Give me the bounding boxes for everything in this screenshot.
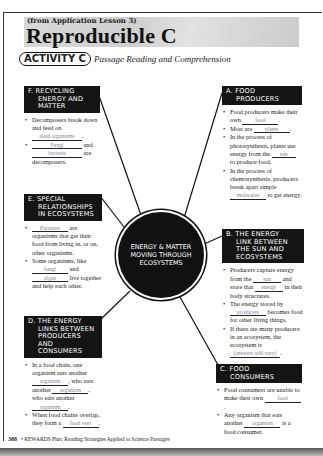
answer-blank[interactable]: organism [244,420,280,428]
bullet: In the process of photosynthesis, plants… [222,133,302,166]
bullet: Decomposers break down and feed on dead … [24,116,100,141]
panel-d-header: D. THE ENERGY LINKS BETWEEN PRODUCERS AN… [24,316,102,358]
answer-blank[interactable]: organism [32,404,68,412]
answer-blank[interactable]: organism [52,387,88,395]
bullet: Food consumers are unable to make their … [216,386,302,411]
panel-c-consumers: C. FOOD CONSUMERS Food consumers are una… [216,364,302,436]
panel-e-relationships: E. SPECIAL RELATIONSHIPS IN ECOSYSTEMS P… [24,194,102,290]
text: . [99,419,101,426]
text: The energy stored by [230,300,283,307]
center-line-3: ECOSYSTEMS [130,259,191,267]
answer-blank[interactable]: food [265,395,301,403]
center-line-2: MOVING THROUGH [130,251,191,259]
header-line: IN ECOSYSTEMS [28,211,98,219]
answer-blank[interactable]: food [242,117,278,125]
bullet: Producers capture energy from the sun an… [222,266,304,299]
bullet: If there are many producers in an ecosys… [222,325,304,358]
bullet: Food producers make their own food. [222,108,302,125]
answer-blank[interactable]: energy [255,284,283,292]
bullet: The energy stored by producers becomes f… [222,300,304,325]
bullet: Most are plants. [222,125,302,134]
center-topic-circle: ENERGY & MATTER MOVING THROUGH ECOSYSTEM… [118,212,204,298]
answer-blank[interactable]: Fungi [32,142,82,150]
bullet: In a food chain, one organism eats anoth… [24,361,102,411]
text: . [224,403,226,410]
connector-a [184,93,222,218]
text: and [70,265,79,272]
answer-blank[interactable]: producers [230,309,266,317]
text: to produce food. [230,158,271,165]
scan-shadow [0,448,323,456]
bullet: In the process of chemosynthesis, produc… [222,167,302,200]
answer-blank[interactable]: organism [32,378,68,386]
connector-d [100,291,130,320]
connector-c [180,297,218,365]
text: . [290,125,292,132]
answer-blank[interactable]: fungi [32,266,68,274]
answer-blank[interactable]: bacteria [32,150,82,158]
connector-e [100,196,124,227]
header-line: PRODUCERS [226,96,298,104]
panel-b-energy-link: B. THE ENERGY LINK BETWEEN THE SUN AND E… [222,229,304,358]
answer-blank[interactable]: food web [63,420,99,428]
panel-f-recycling: F. RECYCLING ENERGY AND MATTER Decompose… [24,86,100,166]
text: and [84,141,93,148]
bullet: Parasites are organisms that get their f… [24,224,102,257]
answer-blank[interactable]: sun [272,151,296,159]
text: If there are many producers in an ecosys… [230,325,300,348]
text: to get energy. [268,191,302,198]
panel-b-header: B. THE ENERGY LINK BETWEEN THE SUN AND E… [222,229,304,263]
connector-b [202,236,222,245]
header-line: ECOSYSTEMS [226,254,300,262]
page-footer: 388• REWARDS Plus: Reading Strategies Ap… [8,436,170,442]
panel-e-header: E. SPECIAL RELATIONSHIPS IN ECOSYSTEMS [24,194,102,221]
answer-blank[interactable]: algae [32,275,68,283]
connector-f [98,93,142,218]
text: . [280,349,282,356]
panel-a-header: A. FOOD PRODUCERS [222,86,302,105]
header-line: MATTER [28,103,96,111]
answer-blank[interactable]: sun [253,276,281,284]
center-line-1: ENERGY & MATTER [130,243,191,251]
text: In a food chain, one organism eats anoth… [32,361,87,376]
footer-text: REWARDS Plus: Reading Strategies Applied… [24,436,169,442]
page-number: 388 [8,436,17,442]
text: . [278,116,280,123]
text: Some organisms, like [32,257,86,264]
answer-blank[interactable]: dead organisms [32,133,82,141]
panel-c-header: C. FOOD CONSUMERS [216,364,302,383]
text: . [68,403,70,410]
text: Most are [230,125,252,132]
text: . [82,132,84,139]
header-line: AND CONSUMERS [28,341,98,356]
answer-blank[interactable]: plants [254,126,290,134]
text: In the process of chemosynthesis, produc… [230,167,298,190]
panel-d-energy-links: D. THE ENERGY LINKS BETWEEN PRODUCERS AN… [24,316,102,428]
panel-a-producers: A. FOOD PRODUCERS Food producers make th… [222,86,302,200]
bullet: When food chains overlap, they form a fo… [24,411,102,428]
answer-blank[interactable]: (answers will vary) [230,350,280,358]
bullet: Any organism that eats another organism … [216,411,302,436]
text: Decomposers break down and feed on [32,116,97,131]
header-line: CONSUMERS [220,374,298,382]
panel-f-header: F. RECYCLING ENERGY AND MATTER [24,86,100,113]
bullet: Some organisms, like fungi and algae liv… [24,257,102,290]
bullet: Fungi andbacteria are decomposers. [24,141,100,166]
answer-blank[interactable]: Parasites [32,225,68,233]
answer-blank[interactable]: molecules [230,192,266,200]
